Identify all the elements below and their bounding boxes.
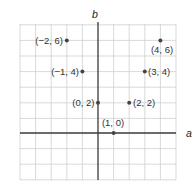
point-4-6 xyxy=(158,38,162,42)
point-0-2 xyxy=(96,101,100,105)
a-axis-label: a xyxy=(186,127,192,139)
label-neg2-6: (−2, 6) xyxy=(35,35,63,46)
label-0-2: (0, 2) xyxy=(72,97,94,108)
point-neg2-6 xyxy=(65,38,69,42)
label-1-0: (1, 0) xyxy=(102,117,124,128)
label-3-4: (3, 4) xyxy=(148,66,170,77)
label-2-2: (2, 2) xyxy=(133,97,155,108)
label-4-6: (4, 6) xyxy=(151,44,173,55)
point-3-4 xyxy=(143,70,147,74)
b-axis-label: b xyxy=(92,8,98,20)
label-neg1-4: (−1, 4) xyxy=(51,66,79,77)
point-2-2 xyxy=(127,101,131,105)
point-1-0 xyxy=(112,131,116,135)
point-neg1-4 xyxy=(80,70,84,74)
coordinate-plane: a b (−2, 6) (−1, 4) (0, 2) (1, 0) (2, 2)… xyxy=(0,0,192,187)
